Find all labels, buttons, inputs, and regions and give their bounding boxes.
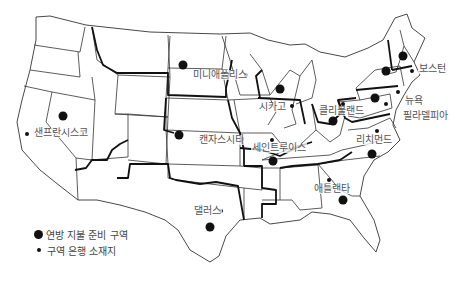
district-marker-8	[269, 157, 278, 166]
legend-item-district: 연방 지불 준비 구역	[34, 226, 128, 242]
city-dot-new-york	[396, 90, 400, 94]
city-label-cleveland: 클리블랜드	[318, 106, 365, 116]
district-marker-5	[368, 150, 377, 159]
city-label-philadelphia: 필라델피아	[402, 111, 449, 121]
district-marker-9	[179, 61, 188, 70]
legend-label-bank-city: 구역 은행 소재지	[47, 243, 116, 258]
city-label-st-louis: 세인트루이스	[251, 143, 307, 153]
district-marker-11	[206, 223, 215, 232]
city-label-chicago: 시카고	[258, 102, 287, 112]
city-label-dallas: 댈러스	[193, 206, 222, 216]
district-marker-3	[371, 94, 380, 103]
legend-item-bank-city: 구역 은행 소재지	[34, 242, 128, 258]
district-marker-12	[59, 112, 68, 121]
city-label-san-francisco: 샌프란시스코	[33, 128, 89, 138]
district-marker-1	[399, 52, 408, 61]
large-dot-icon	[34, 230, 43, 239]
city-label-kansas-city: 캔자스시티	[198, 135, 245, 145]
map-legend: 연방 지불 준비 구역 구역 은행 소재지	[34, 226, 128, 258]
city-label-new-york: 뉴욕	[404, 96, 424, 106]
city-dot-richmond	[375, 129, 379, 133]
legend-label-district: 연방 지불 준비 구역	[46, 227, 128, 242]
city-label-minneapolis: 미니애폴리스	[192, 70, 248, 80]
small-dot-icon	[37, 248, 41, 252]
city-label-richmond: 리치먼드	[355, 135, 393, 145]
city-dot-philadelphia	[384, 102, 388, 106]
city-label-atlanta: 애틀랜타	[313, 184, 351, 194]
district-marker-4	[329, 117, 338, 126]
district-marker-10	[175, 131, 184, 140]
city-dot-chicago	[290, 104, 294, 108]
district-marker-2	[382, 67, 391, 76]
city-dot-san-francisco	[25, 132, 29, 136]
city-dot-boston	[410, 69, 414, 73]
city-label-boston: 보스턴	[418, 64, 447, 74]
city-dot-atlanta	[327, 178, 331, 182]
district-marker-7	[276, 85, 285, 94]
district-marker-6	[339, 196, 348, 205]
